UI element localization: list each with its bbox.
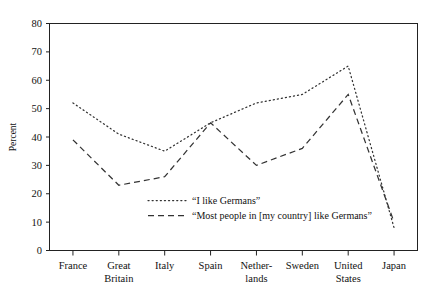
legend-label-1: “I like Germans” [192, 195, 260, 206]
y-tick-label: 0 [37, 245, 42, 256]
x-tick-label: Sweden [286, 260, 320, 271]
legend-label-2: “Most people in [my country] like German… [192, 210, 372, 221]
x-tick-label: Italy [155, 260, 175, 271]
x-tick-label: Japan [382, 260, 407, 271]
y-tick-label: 60 [32, 75, 43, 86]
x-tick-label: France [59, 260, 88, 271]
chart-figure: 01020304050607080 Percent FranceGreatBri… [0, 0, 432, 297]
y-axis-title: Percent [8, 122, 18, 151]
y-tick-label: 30 [32, 160, 43, 171]
x-tick-label: lands [245, 273, 267, 284]
y-tick-label: 70 [32, 46, 43, 57]
x-tick-label: Great [107, 260, 130, 271]
y-tick-label: 80 [32, 18, 43, 29]
x-tick-label: Nether- [241, 260, 273, 271]
y-tick-label: 10 [32, 217, 43, 228]
y-tick-label: 20 [32, 188, 43, 199]
x-tick-label: Spain [199, 260, 224, 271]
x-tick-label: United [334, 260, 363, 271]
x-tick-label: Britain [104, 273, 134, 284]
y-tick-label: 40 [32, 132, 43, 143]
y-tick-label: 50 [32, 103, 43, 114]
x-tick-label: States [336, 273, 361, 284]
